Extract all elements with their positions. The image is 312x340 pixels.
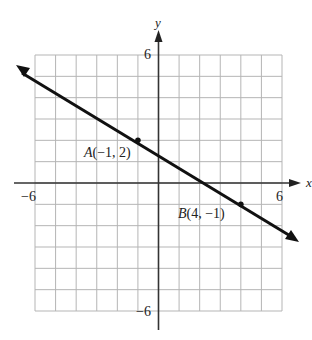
coordinate-plane: [0, 0, 312, 340]
x-axis-arrow-icon: [289, 179, 301, 187]
y-axis-arrow-icon: [155, 30, 163, 42]
point-a-coords: (−1, 2): [93, 145, 131, 160]
line-arrow-right-icon: [285, 230, 299, 242]
y-max-tick-label: 6: [144, 48, 151, 62]
point-a-label: A(−1, 2): [84, 146, 131, 160]
point-b-coords: (4, −1): [187, 206, 225, 221]
x-max-tick-label: 6: [276, 190, 283, 204]
point-a: [135, 138, 141, 144]
point-b-letter: B: [178, 206, 187, 221]
point-b-label: B(4, −1): [178, 207, 225, 221]
x-axis-label: x: [306, 176, 312, 189]
y-axis-label: y: [155, 16, 161, 29]
x-min-tick-label: −6: [21, 190, 36, 204]
point-a-letter: A: [84, 145, 93, 160]
y-min-tick-label: −6: [136, 305, 151, 319]
point-b: [238, 202, 244, 208]
